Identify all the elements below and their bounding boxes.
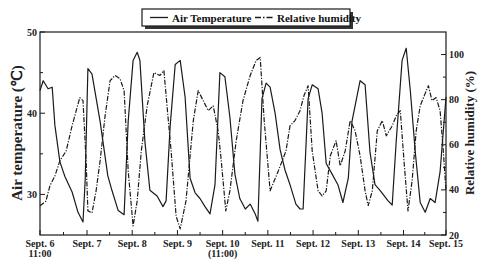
x-tick-label: Sept. 11 xyxy=(251,238,284,249)
legend: Air Temperature Relative humidity xyxy=(142,9,362,29)
right-y-tick-label: 20 xyxy=(449,230,459,241)
legend-label-relative-humidity: Relative humidity xyxy=(277,12,362,24)
x-tick-label: Sept. 13 xyxy=(341,238,375,249)
left-y-tick-label: 30 xyxy=(27,189,37,200)
relative-humidity-line xyxy=(40,58,446,229)
right-y-axis: 20406080100 xyxy=(441,49,464,240)
left-axis-title: Air temperature (℃) xyxy=(9,65,26,201)
left-y-tick-label: 50 xyxy=(27,27,37,38)
right-y-tick-label: 80 xyxy=(449,94,459,105)
x-tick-label: Sept. 7 xyxy=(73,238,102,249)
x-tick-label: Sept. 9 xyxy=(163,238,192,249)
air-temperature-line xyxy=(40,48,446,222)
dual-axis-line-chart: Air Temperature Relative humidity Sept. … xyxy=(0,0,489,270)
right-y-tick-label: 40 xyxy=(449,184,459,195)
right-y-tick-label: 100 xyxy=(449,49,464,60)
x-tick-label: Sept. 8 xyxy=(118,238,147,249)
left-y-axis: 304050 xyxy=(27,27,45,200)
right-axis-title: Relative humidity (%) xyxy=(462,71,477,195)
x-tick-label: Sept. 14 xyxy=(387,238,421,249)
right-y-tick-label: 60 xyxy=(449,139,459,150)
legend-label-air-temperature: Air Temperature xyxy=(172,12,251,24)
left-y-tick-label: 40 xyxy=(27,108,37,119)
x-tick-label: Sept. 12 xyxy=(296,238,330,249)
x-tick-sublabel: (11:00) xyxy=(208,248,237,260)
x-tick-sublabel: 11:00 xyxy=(29,248,52,259)
series-lines xyxy=(40,48,446,229)
